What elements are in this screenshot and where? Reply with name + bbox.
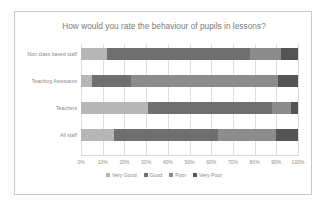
x-tick-label: 30% [141,159,151,165]
legend-label: Very Good [112,172,137,178]
x-tick-label: 80% [250,159,260,165]
category-label: All staff [13,129,77,141]
legend-swatch-icon [169,173,173,177]
plot-area: Non class based staffTeaching Assistants… [81,44,298,156]
bar-segment [250,48,280,60]
bar-segment [81,102,148,114]
x-tick-label: 40% [163,159,173,165]
bar-segment [278,75,298,87]
category-label: Teaching Assistants [13,75,77,87]
bar-segment [291,102,298,114]
legend-label: Good [150,172,163,178]
x-tick-label: 60% [206,159,216,165]
bar-segment [81,48,107,60]
x-tick-label: 90% [271,159,281,165]
gridline-100% [298,44,299,156]
bar-segment [107,48,250,60]
bar-segment [81,75,92,87]
legend-label: Poor [175,172,186,178]
legend-item[interactable]: Very Poor [193,172,222,178]
chart-legend: Very GoodGoodPoorVery Poor [15,172,313,178]
x-tick-label: 20% [119,159,129,165]
bar-segment [281,48,298,60]
bar-row: All staff [81,129,298,141]
category-label: Non class based staff [13,48,77,60]
bar-segment [92,75,131,87]
x-tick-label: 100% [292,159,305,165]
chart-title: How would you rate the behaviour of pupi… [15,21,313,31]
legend-swatch-icon [106,173,110,177]
legend-swatch-icon [144,173,148,177]
x-tick-label: 50% [184,159,194,165]
bar-segment [131,75,279,87]
x-tick-label: 0% [77,159,84,165]
bar-row: Teachers [81,102,298,114]
x-tick-label: 10% [98,159,108,165]
bar-segment [114,129,218,141]
bar-segment [276,129,298,141]
legend-label: Very Poor [199,172,222,178]
legend-item[interactable]: Very Good [106,172,137,178]
bar-row: Non class based staff [81,48,298,60]
bar-segment [218,129,277,141]
bar-row: Teaching Assistants [81,75,298,87]
category-label: Teachers [13,102,77,114]
bar-segment [148,102,272,114]
page-canvas: How would you rate the behaviour of pupi… [0,0,327,208]
chart-container: How would you rate the behaviour of pupi… [14,11,312,195]
legend-item[interactable]: Poor [169,172,186,178]
legend-swatch-icon [193,173,197,177]
bar-segment [81,129,114,141]
bar-segment [272,102,292,114]
x-tick-label: 70% [228,159,238,165]
legend-item[interactable]: Good [144,172,163,178]
